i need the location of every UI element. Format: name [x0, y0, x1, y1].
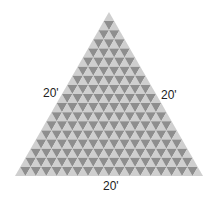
left-side-label: 20' — [43, 86, 59, 100]
right-side-label: 20' — [161, 88, 177, 102]
triangle-tile-diagram — [0, 0, 216, 202]
bottom-side-label: 20' — [103, 179, 119, 193]
